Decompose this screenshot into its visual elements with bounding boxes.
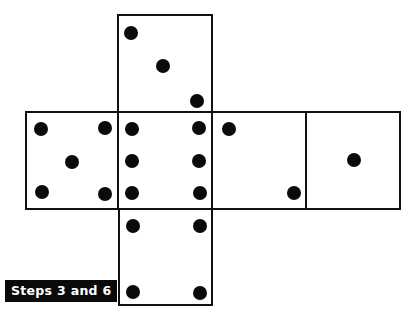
- pip: [347, 153, 361, 167]
- pip: [192, 121, 206, 135]
- pip: [192, 154, 206, 168]
- pip: [65, 155, 79, 169]
- face-center: [117, 111, 213, 210]
- pip: [193, 186, 207, 200]
- pip: [190, 94, 204, 108]
- pip: [125, 154, 139, 168]
- pip: [34, 122, 48, 136]
- pip: [125, 186, 139, 200]
- pip: [156, 59, 170, 73]
- pip: [193, 219, 207, 233]
- pip: [35, 185, 49, 199]
- face-bottom: [118, 208, 213, 306]
- caption-label: Steps 3 and 6: [5, 280, 117, 302]
- pip: [126, 285, 140, 299]
- pip: [193, 286, 207, 300]
- face-far-right: [305, 111, 401, 210]
- face-left: [25, 111, 120, 210]
- pip: [287, 186, 301, 200]
- face-top: [117, 14, 213, 113]
- pip: [222, 122, 236, 136]
- pip: [125, 122, 139, 136]
- pip: [124, 26, 138, 40]
- pip: [98, 121, 112, 135]
- pip: [98, 187, 112, 201]
- face-right: [211, 111, 307, 210]
- pip: [126, 219, 140, 233]
